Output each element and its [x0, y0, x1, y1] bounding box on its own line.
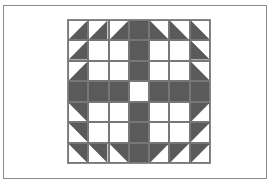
quilt-cell-white-square — [109, 61, 129, 81]
quilt-cell-triangle-dark-upper-left — [190, 143, 210, 163]
quilt-cell-dark-square — [169, 81, 189, 101]
quilt-cell-triangle-dark-upper-left — [190, 102, 210, 122]
quilt-cell-white-square — [169, 40, 189, 60]
quilt-cell-dark-square — [129, 20, 149, 40]
quilt-cell-dark-square — [129, 61, 149, 81]
quilt-cell-white-square — [88, 61, 108, 81]
quilt-cell-white-square — [88, 122, 108, 142]
quilt-cell-white-square — [149, 122, 169, 142]
quilt-cell-triangle-dark-upper-left — [169, 143, 189, 163]
quilt-cell-dark-square — [129, 143, 149, 163]
quilt-cell-white-square — [169, 122, 189, 142]
quilt-cell-triangle-dark-lower-right — [109, 20, 129, 40]
quilt-cell-dark-square — [68, 81, 88, 101]
quilt-cell-triangle-dark-lower-right — [68, 61, 88, 81]
quilt-cell-white-square — [169, 61, 189, 81]
quilt-cell-dark-square — [190, 81, 210, 101]
quilt-cell-white-square — [109, 122, 129, 142]
quilt-cell-dark-square — [129, 122, 149, 142]
quilt-cell-triangle-dark-lower-left — [190, 61, 210, 81]
quilt-cell-triangle-dark-lower-left — [190, 20, 210, 40]
quilt-cell-white-square — [149, 102, 169, 122]
quilt-cell-dark-square — [149, 81, 169, 101]
quilt-cell-white-square — [169, 102, 189, 122]
quilt-cell-dark-square — [88, 81, 108, 101]
quilt-cell-triangle-dark-lower-left — [190, 40, 210, 60]
quilt-block-grid — [67, 19, 211, 164]
quilt-cell-triangle-dark-upper-right — [88, 143, 108, 163]
quilt-cell-triangle-dark-lower-right — [68, 40, 88, 60]
quilt-cell-white-square — [109, 40, 129, 60]
quilt-cell-triangle-dark-lower-right — [68, 20, 88, 40]
quilt-cell-white-square — [149, 61, 169, 81]
quilt-cell-triangle-dark-lower-right — [88, 20, 108, 40]
quilt-cell-triangle-dark-upper-right — [109, 143, 129, 163]
quilt-cell-triangle-dark-upper-right — [68, 122, 88, 142]
quilt-cell-white-square — [129, 81, 149, 101]
quilt-cell-white-square — [88, 102, 108, 122]
quilt-cell-dark-square — [109, 81, 129, 101]
quilt-cell-white-square — [88, 40, 108, 60]
quilt-cell-triangle-dark-lower-left — [149, 20, 169, 40]
quilt-cell-dark-square — [129, 40, 149, 60]
quilt-cell-triangle-dark-upper-left — [149, 143, 169, 163]
quilt-cell-triangle-dark-lower-left — [169, 20, 189, 40]
quilt-cell-white-square — [109, 102, 129, 122]
quilt-cell-triangle-dark-upper-left — [190, 122, 210, 142]
quilt-cell-triangle-dark-upper-right — [68, 102, 88, 122]
quilt-cell-dark-square — [129, 102, 149, 122]
quilt-cell-triangle-dark-upper-right — [68, 143, 88, 163]
quilt-cell-white-square — [149, 40, 169, 60]
